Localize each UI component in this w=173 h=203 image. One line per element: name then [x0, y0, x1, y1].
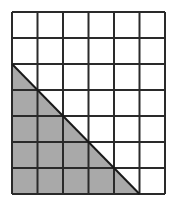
grid-diagram — [0, 0, 173, 203]
